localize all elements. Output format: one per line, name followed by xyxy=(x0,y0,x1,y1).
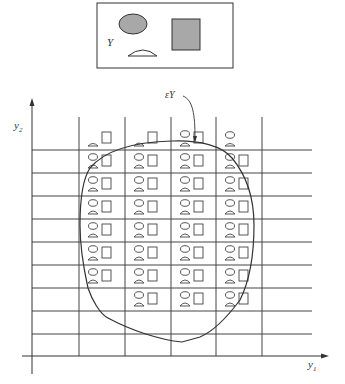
square-icon xyxy=(172,19,200,50)
grid xyxy=(32,117,312,356)
diagram-canvas xyxy=(0,0,345,384)
y-axis-arrow-icon xyxy=(30,98,35,106)
legend-y-text: Y xyxy=(107,36,113,48)
annotation-text: εY xyxy=(165,89,175,100)
x-axis-sub: 1 xyxy=(313,365,317,373)
legend-box xyxy=(97,3,233,68)
axes xyxy=(22,98,329,374)
ellipse-icon xyxy=(119,14,147,34)
cell-symbols xyxy=(88,131,248,306)
annotation-arrow xyxy=(183,96,195,138)
annotation-label: εY xyxy=(165,89,175,100)
y-axis-sub: 2 xyxy=(19,126,23,134)
region-boundary xyxy=(80,141,254,342)
y-axis-label: y2 xyxy=(14,119,22,134)
x-axis-arrow-icon xyxy=(321,354,329,359)
x-axis-label: y1 xyxy=(308,358,316,373)
legend-y-label: Y xyxy=(107,36,113,48)
